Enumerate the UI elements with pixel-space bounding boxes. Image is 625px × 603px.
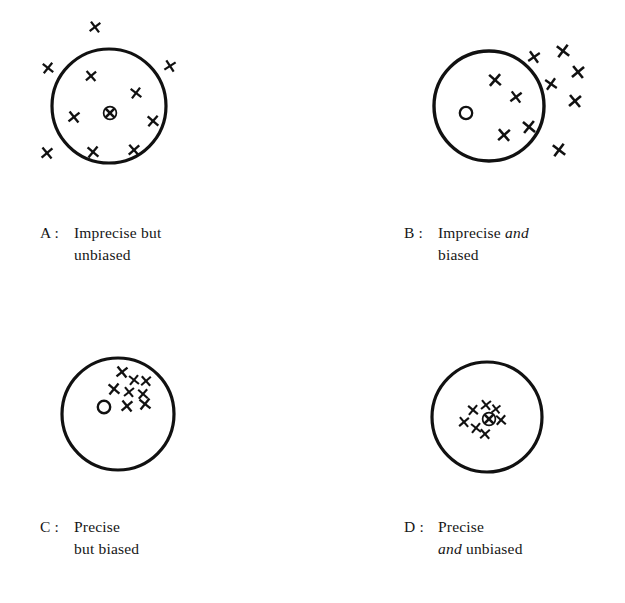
caption-fragment: unbiased [462, 540, 523, 557]
figure-root: A :Imprecise butunbiased B :Imprecise an… [0, 0, 625, 603]
caption-line: and unbiased [438, 538, 523, 560]
panel-c-caption: C :Precisebut biased [40, 516, 139, 560]
panel-d-caption-text: Preciseand unbiased [438, 516, 523, 560]
x-mark-icon [528, 51, 540, 63]
x-mark-icon [124, 387, 134, 397]
x-mark-icon [496, 415, 506, 425]
x-mark-icon [86, 71, 96, 81]
x-mark-icon [148, 116, 159, 127]
x-mark-icon [88, 147, 99, 158]
panel-a-caption: A :Imprecise butunbiased [40, 222, 161, 266]
caption-fragment: Imprecise but [74, 224, 161, 241]
panel-c-caption-text: Precisebut biased [74, 516, 139, 560]
x-mark-icon [122, 401, 133, 412]
x-mark-icon [109, 384, 120, 395]
x-mark-icon [43, 63, 53, 73]
caption-fragment: but biased [74, 540, 139, 557]
caption-line: Imprecise and [438, 222, 529, 244]
panel-b: B :Imprecise andbiased [312, 0, 625, 300]
panel-a-caption-text: Imprecise butunbiased [74, 222, 161, 266]
x-mark-icon [69, 112, 80, 123]
x-mark-icon [523, 121, 535, 133]
caption-line: unbiased [74, 244, 161, 266]
panel-c-key: C : [40, 516, 74, 538]
caption-fragment: Precise [74, 518, 120, 535]
x-mark-icon [459, 417, 469, 427]
panel-d: D :Preciseand unbiased [312, 300, 625, 603]
x-mark-icon [553, 144, 565, 156]
x-mark-icon [138, 389, 148, 399]
x-mark-icon [510, 91, 521, 102]
caption-fragment: unbiased [74, 246, 131, 263]
caption-emphasis: and [505, 224, 529, 241]
panel-a-key: A : [40, 222, 74, 244]
caption-line: Imprecise but [74, 222, 161, 244]
x-mark-icon [572, 66, 584, 78]
x-mark-icon [498, 129, 510, 141]
x-mark-icon [131, 88, 142, 99]
caption-line: Precise [438, 516, 523, 538]
x-stroke-2 [164, 60, 175, 71]
caption-line: biased [438, 244, 529, 266]
caption-fragment: biased [438, 246, 479, 263]
target-center-crossed-icon [104, 107, 117, 120]
x-mark-icon [90, 22, 101, 33]
target-boundary-circle [434, 51, 544, 161]
panel-b-key: B : [404, 222, 438, 244]
caption-emphasis: and [438, 540, 462, 557]
x-mark-icon [164, 60, 175, 71]
caption-fragment: Precise [438, 518, 484, 535]
x-mark-icon [129, 145, 140, 156]
caption-fragment: Imprecise [438, 224, 505, 241]
caption-line: but biased [74, 538, 139, 560]
x-mark-icon [42, 148, 53, 159]
x-mark-icon [471, 423, 481, 433]
x-mark-icon [468, 405, 478, 415]
x-mark-icon [480, 429, 490, 439]
caption-line: Precise [74, 516, 139, 538]
x-mark-icon [129, 375, 139, 385]
panel-a: A :Imprecise butunbiased [0, 0, 312, 300]
x-mark-icon [492, 405, 501, 414]
panel-b-caption: B :Imprecise andbiased [404, 222, 529, 266]
panel-b-caption-text: Imprecise andbiased [438, 222, 529, 266]
target-center-crossed-icon [483, 413, 496, 426]
x-mark-icon [545, 78, 557, 90]
x-mark-icon [481, 400, 491, 410]
x-mark-icon [117, 367, 128, 378]
panel-c: C :Precisebut biased [0, 300, 312, 603]
target-center-open-icon [98, 401, 110, 413]
panel-d-key: D : [404, 516, 438, 538]
target-center-open-icon [460, 107, 472, 119]
x-mark-icon [569, 95, 581, 107]
x-mark-icon [141, 376, 151, 386]
target-ring [460, 107, 472, 119]
x-mark-icon [489, 74, 501, 86]
target-ring [98, 401, 110, 413]
x-mark-icon [557, 45, 569, 57]
x-mark-icon [140, 399, 151, 410]
panel-d-caption: D :Preciseand unbiased [404, 516, 523, 560]
